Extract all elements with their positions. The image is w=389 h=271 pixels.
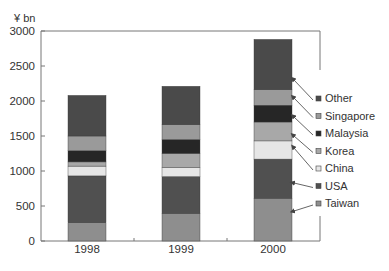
bar-segment-singapore [254, 90, 292, 105]
bar-segment-usa [162, 177, 200, 214]
legend-arrow [294, 117, 313, 135]
bar-segment-korea [162, 154, 200, 168]
bar-segment-other [68, 95, 106, 136]
bar-2000 [254, 39, 292, 241]
legend-swatch [316, 184, 321, 189]
bar-segment-other [162, 86, 200, 125]
bar-segment-taiwan [162, 214, 200, 241]
stacked-bar-chart: ¥ bn 050010001500200025003000 1998199920… [0, 0, 389, 271]
legend-label: Other [325, 92, 353, 104]
legend-arrow [294, 98, 313, 118]
bar-segment-singapore [68, 136, 106, 151]
y-unit-label: ¥ bn [13, 12, 35, 24]
bar-segment-taiwan [68, 223, 106, 241]
y-tick-label: 2500 [9, 60, 35, 72]
legend-label: USA [325, 180, 348, 192]
x-tick-label: 1999 [168, 243, 194, 255]
legend-label: Korea [325, 145, 355, 157]
legend-swatch [316, 201, 321, 206]
y-tick-label: 0 [29, 235, 35, 247]
bar-segment-usa [254, 159, 292, 198]
legend-swatch [316, 96, 321, 101]
bar-segment-usa [68, 176, 106, 223]
bar-segment-china [68, 166, 106, 176]
bar-segment-taiwan [254, 198, 292, 241]
legend-label: Malaysia [325, 127, 369, 139]
bar-1998 [68, 95, 106, 241]
bar-segment-singapore [162, 125, 200, 140]
bars [68, 39, 292, 241]
bar-segment-malaysia [254, 105, 292, 122]
y-axis: 050010001500200025003000 [9, 25, 45, 247]
legend-item-usa: USA [294, 180, 348, 192]
legend-swatch [316, 114, 321, 119]
legend-label: China [325, 162, 355, 174]
bar-segment-china [162, 168, 200, 177]
legend-label: Singapore [325, 110, 375, 122]
legend-item-other: Other [294, 80, 353, 104]
legend-arrow [294, 205, 313, 211]
legend-swatch [316, 131, 321, 136]
legend-label: Taiwan [325, 197, 359, 209]
legend-arrow [294, 136, 313, 153]
legend-swatch [316, 166, 321, 171]
y-tick-label: 500 [16, 200, 35, 212]
bar-segment-korea [254, 122, 292, 141]
y-tick-label: 3000 [9, 25, 35, 37]
legend-arrow [294, 80, 313, 100]
legend-swatch [316, 149, 321, 154]
legend-item-taiwan: Taiwan [294, 197, 359, 211]
legend: OtherSingaporeMalaysiaKoreaChinaUSATaiwa… [294, 80, 375, 211]
bar-segment-other [254, 39, 292, 89]
y-tick-label: 1000 [9, 165, 35, 177]
y-tick-label: 1500 [9, 130, 35, 142]
y-tick-label: 2000 [9, 95, 35, 107]
legend-arrow [294, 148, 313, 170]
bar-segment-malaysia [162, 140, 200, 154]
x-tick-label: 2000 [260, 243, 286, 255]
bar-segment-korea [68, 162, 106, 166]
bar-segment-china [254, 141, 292, 159]
legend-arrow [294, 183, 313, 188]
bar-1999 [162, 86, 200, 241]
legend-item-korea: Korea [294, 136, 355, 157]
x-tick-label: 1998 [74, 243, 100, 255]
bar-segment-malaysia [68, 151, 106, 162]
